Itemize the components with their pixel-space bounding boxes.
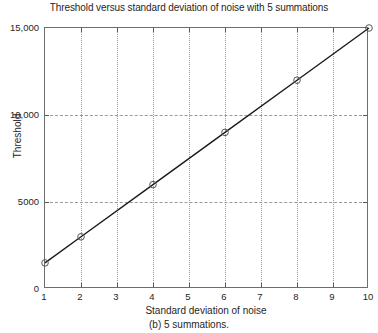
y-tick-label: 15,000 [0,22,39,33]
x-tick-label: 8 [293,291,298,302]
x-tick-label: 3 [113,291,118,302]
x-tick-label: 2 [77,291,82,302]
chart-title: Threshold versus standard deviation of n… [0,1,378,14]
x-tick-label: 10 [363,291,374,302]
data-series [45,28,369,289]
plot-area [44,27,368,288]
figure-caption: (b) 5 summations. [0,319,378,331]
x-tick-label: 1 [41,291,46,302]
x-tick-label: 7 [257,291,262,302]
plot-inner [45,28,367,287]
y-tick-label: 0 [0,283,39,294]
x-tick-label: 4 [149,291,154,302]
x-tick-label: 9 [329,291,334,302]
x-tick-label: 5 [185,291,190,302]
series-line [45,28,369,263]
figure-container: Threshold versus standard deviation of n… [0,0,378,333]
x-axis-label: Standard deviation of noise [44,305,368,317]
y-tick-label: 5000 [0,196,39,207]
y-axis-label: Threshold [12,91,24,181]
x-tick-label: 6 [221,291,226,302]
